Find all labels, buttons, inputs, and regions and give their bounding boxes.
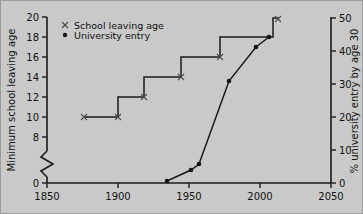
university-entry-point-2009 <box>267 35 272 40</box>
university-entry-point-2000 <box>254 45 259 50</box>
left-axis-group: 20 18 16 14 12 10 8 0 Minimum school lea… <box>6 12 53 189</box>
chart-legend: School leaving age University entry <box>62 20 164 41</box>
x-tick-label-2050: 2050 <box>318 191 343 202</box>
x-tick-label-1900: 1900 <box>105 191 130 202</box>
university-entry-point-1959 <box>197 162 202 167</box>
right-tick-label-0: 0 <box>339 178 345 189</box>
x-tick-label-1950: 1950 <box>176 191 201 202</box>
x-tick-label-1850: 1850 <box>34 191 59 202</box>
left-axis-title: Minimum school leaving age <box>6 28 17 171</box>
left-tick-label-18: 18 <box>26 32 39 43</box>
chart-canvas: 20 18 16 14 12 10 8 0 Minimum school lea… <box>1 1 363 214</box>
left-tick-label-8: 8 <box>33 132 39 143</box>
university-entry-point-1938 <box>165 179 170 184</box>
university-entry-point-1954 <box>189 168 194 173</box>
university-entry-point-1979 <box>227 79 232 84</box>
plot-surface: 20 18 16 14 12 10 8 0 Minimum school lea… <box>1 1 362 213</box>
right-tick-label-50: 50 <box>339 13 352 24</box>
school-leaving-age-marker-2015 <box>275 16 281 22</box>
left-axis-break-zigzag <box>41 151 53 177</box>
left-tick-label-16: 16 <box>26 52 39 63</box>
left-tick-label-14: 14 <box>26 72 39 83</box>
left-tick-label-0: 0 <box>33 178 39 189</box>
chart-figure: 20 18 16 14 12 10 8 0 Minimum school lea… <box>0 0 363 214</box>
x-tick-label-2000: 2000 <box>247 191 272 202</box>
right-axis-title: % university entry by age 30 <box>349 29 360 174</box>
right-axis-group: 50 40 30 20 10 0 % university entry by a… <box>331 13 360 189</box>
legend-item-university-entry-label: University entry <box>74 30 150 41</box>
cross-marker-icon <box>62 22 68 28</box>
dot-marker-icon <box>63 33 67 37</box>
x-axis-group: 1850 1900 1950 2000 2050 <box>34 183 343 202</box>
left-tick-label-20: 20 <box>26 12 39 23</box>
left-tick-label-10: 10 <box>26 112 39 123</box>
left-tick-label-12: 12 <box>26 92 39 103</box>
